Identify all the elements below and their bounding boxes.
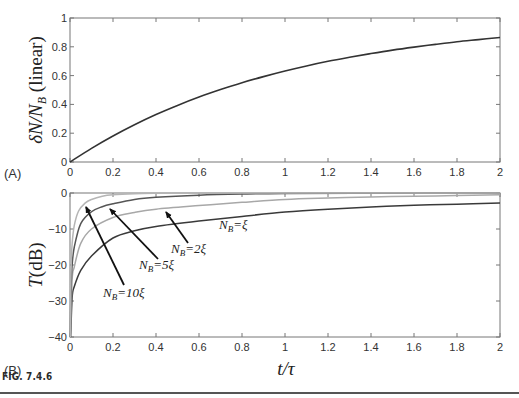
panel-a-series <box>70 37 500 162</box>
panel-a-plot: 00.20.40.60.811.21.41.61.8200.20.40.60.8… <box>4 12 503 181</box>
x-tick-label: 1.2 <box>320 166 335 178</box>
panel-b-annotations: NB=10ξNB=5ξNB=2ξNB=ξ <box>86 207 248 302</box>
x-tick-label: 1.2 <box>320 341 335 353</box>
x-tick-label: 1.6 <box>406 166 421 178</box>
y-tick-label: −20 <box>48 259 67 271</box>
panel-a-ylabel: δN/NB (linear) <box>25 36 49 143</box>
y-tick-label: 1 <box>61 12 67 24</box>
figure-caption: FIG. 7.4.6 <box>2 370 52 382</box>
panel-b-series <box>70 193 500 337</box>
y-tick-label: 0.4 <box>52 98 67 110</box>
x-tick-label: 0.4 <box>148 341 163 353</box>
x-tick-label: 0.8 <box>234 166 249 178</box>
x-tick-label: 0.4 <box>148 166 163 178</box>
x-tick-label: 1.8 <box>449 166 464 178</box>
x-tick-label: 2 <box>497 341 503 353</box>
ylabel-suffix: (dB) <box>25 242 47 277</box>
x-tick-label: 1.8 <box>449 341 464 353</box>
annotation-label: NB=5ξ <box>138 257 174 274</box>
caption-rule <box>0 392 519 394</box>
series-line <box>70 195 500 337</box>
x-tick-label: 1.4 <box>363 166 378 178</box>
ylabel-suffix: (linear) <box>25 36 47 97</box>
figure: 00.20.40.60.811.21.41.61.8200.20.40.60.8… <box>0 0 519 398</box>
series-line <box>70 37 500 162</box>
x-tick-label: 1.4 <box>363 341 378 353</box>
y-tick-label: −40 <box>48 331 67 343</box>
x-tick-label: 0.8 <box>234 341 249 353</box>
y-tick-label: 0 <box>61 187 67 199</box>
series-line <box>71 203 500 337</box>
annotation-arrow <box>166 212 188 243</box>
annotation-label: NB=ξ <box>218 217 248 234</box>
ylabel-main: δN/N <box>25 103 46 144</box>
annotation-label: NB=2ξ <box>170 241 206 258</box>
x-tick-label: 1 <box>282 166 288 178</box>
x-tick-label: 1 <box>282 341 288 353</box>
panel-b-frame <box>70 193 500 337</box>
series-line <box>70 193 500 337</box>
x-tick-label: 2 <box>497 166 503 178</box>
y-tick-label: 0.8 <box>52 41 67 53</box>
x-tick-label: 0.2 <box>105 166 120 178</box>
x-tick-label: 0 <box>67 166 73 178</box>
x-tick-label: 1.6 <box>406 341 421 353</box>
panel-b-ylabel: T(dB) <box>25 242 47 287</box>
panel-b-plot: 00.20.40.60.811.21.41.61.82−40−30−20−100… <box>4 187 503 379</box>
x-tick-label: 0 <box>67 341 73 353</box>
y-tick-label: −30 <box>48 295 67 307</box>
series-line <box>70 193 500 337</box>
panel-a-label: (A) <box>4 166 21 181</box>
annotation-arrow <box>110 209 158 259</box>
y-tick-label: 0.6 <box>52 70 67 82</box>
x-tick-label: 0.2 <box>105 341 120 353</box>
x-tick-label: 0.6 <box>191 166 206 178</box>
y-tick-label: 0 <box>61 156 67 168</box>
y-tick-label: 0.2 <box>52 127 67 139</box>
panel-a-frame <box>70 18 500 162</box>
x-tick-label: 0.6 <box>191 341 206 353</box>
panel-b-xlabel: t/τ <box>277 358 296 379</box>
panel-a-ticks: 00.20.40.60.811.21.41.61.8200.20.40.60.8… <box>52 12 503 178</box>
y-tick-label: −10 <box>48 223 67 235</box>
annotation-label: NB=10ξ <box>102 285 145 302</box>
